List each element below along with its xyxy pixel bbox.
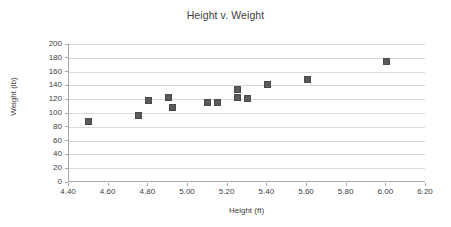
y-axis-tick-mark <box>65 154 68 155</box>
gridline <box>69 44 425 45</box>
y-axis-tick-mark <box>65 113 68 114</box>
y-axis-tick-mark <box>65 168 68 169</box>
data-point <box>135 112 142 119</box>
gridline <box>69 141 425 142</box>
y-axis-tick-label: 140 <box>32 81 62 89</box>
y-axis-tick-label: 40 <box>32 150 62 158</box>
y-axis-tick-label: 20 <box>32 164 62 172</box>
gridline <box>69 113 425 114</box>
x-axis-tick-label: 4.40 <box>48 188 88 196</box>
y-axis-title: Weight (lb) <box>9 62 18 132</box>
y-axis-tick-mark <box>65 140 68 141</box>
x-axis-tick-label: 5.20 <box>207 188 247 196</box>
data-point <box>304 76 311 83</box>
x-axis-tick-label: 6.00 <box>365 188 405 196</box>
y-axis-tick-label: 200 <box>32 40 62 48</box>
data-point <box>204 99 211 106</box>
y-axis-tick-label: 100 <box>32 109 62 117</box>
y-axis-tick-label: 120 <box>32 95 62 103</box>
x-axis-tick-mark <box>187 183 188 186</box>
data-point <box>234 86 241 93</box>
x-axis-tick-mark <box>227 183 228 186</box>
y-axis-tick-label: 160 <box>32 68 62 76</box>
data-point <box>214 99 221 106</box>
x-axis-tick-label: 4.60 <box>88 188 128 196</box>
x-axis-tick-mark <box>68 183 69 186</box>
gridline <box>69 168 425 169</box>
x-axis-tick-label: 4.80 <box>127 188 167 196</box>
y-axis-tick-mark <box>65 85 68 86</box>
x-axis-tick-mark <box>147 183 148 186</box>
y-axis-tick-label: 0 <box>32 178 62 186</box>
x-axis-tick-label: 5.80 <box>326 188 366 196</box>
data-point <box>169 104 176 111</box>
x-axis-tick-label: 5.40 <box>246 188 286 196</box>
y-axis-tick-label: 180 <box>32 54 62 62</box>
x-axis-tick-mark <box>266 183 267 186</box>
data-point <box>145 97 152 104</box>
gridline <box>69 85 425 86</box>
y-axis-tick-label: 80 <box>32 123 62 131</box>
x-axis-title: Height (ft) <box>68 206 425 215</box>
chart-container: Height v. Weight 20018016014012010080604… <box>0 0 451 227</box>
x-axis-tick-label: 5.60 <box>286 188 326 196</box>
x-axis-tick-label: 5.00 <box>167 188 207 196</box>
gridline <box>69 154 425 155</box>
x-axis-tick-mark <box>108 183 109 186</box>
data-point <box>234 94 241 101</box>
gridline <box>69 58 425 59</box>
data-point <box>165 94 172 101</box>
gridline <box>69 72 425 73</box>
y-axis-tick-mark <box>65 126 68 127</box>
y-axis-tick-mark <box>65 44 68 45</box>
gridline <box>69 127 425 128</box>
x-axis-tick-mark <box>306 183 307 186</box>
x-axis-tick-mark <box>346 183 347 186</box>
data-point <box>264 81 271 88</box>
x-axis-tick-mark <box>425 183 426 186</box>
data-point <box>244 95 251 102</box>
data-point <box>383 58 390 65</box>
plot-area <box>68 44 425 182</box>
y-axis-tick-label: 60 <box>32 137 62 145</box>
x-axis-tick-label: 6.20 <box>405 188 445 196</box>
x-axis-tick-mark <box>385 183 386 186</box>
chart-title: Height v. Weight <box>0 9 451 21</box>
y-axis-tick-mark <box>65 99 68 100</box>
y-axis-tick-mark <box>65 71 68 72</box>
data-point <box>85 118 92 125</box>
y-axis-tick-mark <box>65 57 68 58</box>
